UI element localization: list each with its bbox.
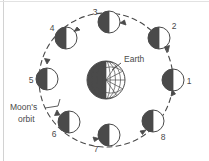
arrow-toward-3 xyxy=(120,20,126,25)
moon-6 xyxy=(58,111,80,133)
moon-5 xyxy=(36,68,58,90)
moon-4 xyxy=(55,27,77,49)
moon-8 xyxy=(142,110,164,132)
moon-label-2: 2 xyxy=(172,21,177,31)
moon-3 xyxy=(98,11,120,33)
moon-label-1: 1 xyxy=(187,76,192,86)
moon-phases-figure: Earth xyxy=(0,0,209,161)
orbit-label-line2: orbit xyxy=(18,114,35,124)
arrow-toward-5 xyxy=(45,59,51,65)
arrow-toward-2 xyxy=(165,46,170,53)
moon-label-8: 8 xyxy=(161,132,166,142)
moon-label-6: 6 xyxy=(52,129,57,139)
moon-1 xyxy=(162,69,184,91)
moon-shadow-half xyxy=(98,11,109,33)
earth-globe xyxy=(87,61,125,99)
moon-label-5: 5 xyxy=(29,75,34,85)
moon-shadow-half xyxy=(36,68,47,90)
moon-shadow-half xyxy=(162,69,173,91)
moon-shadow-half xyxy=(55,27,66,49)
diagram-canvas: Earth xyxy=(0,0,209,161)
moon-shadow-half xyxy=(142,110,153,132)
moon-label-4: 4 xyxy=(50,23,55,33)
orbit-leader-line xyxy=(45,99,60,108)
moon-label-7: 7 xyxy=(94,144,99,154)
moon-shadow-half xyxy=(148,27,159,49)
arrow-toward-6 xyxy=(55,110,61,116)
orbit-label-line1: Moon's xyxy=(10,102,37,112)
moon-2 xyxy=(148,27,170,49)
arrow-toward-4 xyxy=(74,27,80,32)
moon-label-3: 3 xyxy=(93,7,98,17)
moon-shadow-half xyxy=(98,124,109,146)
earth-label: Earth xyxy=(124,54,145,64)
moon-7 xyxy=(98,124,120,146)
